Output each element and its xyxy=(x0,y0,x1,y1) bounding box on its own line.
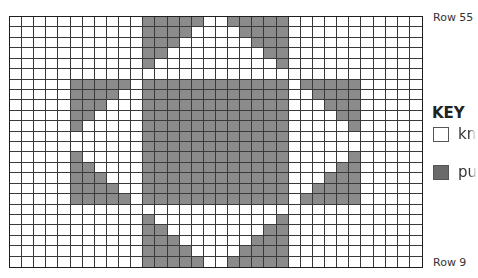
knit-cell xyxy=(398,205,410,215)
knit-cell xyxy=(301,59,313,69)
purl-cell xyxy=(180,152,192,162)
purl-cell xyxy=(216,132,228,142)
knit-cell xyxy=(107,225,119,235)
purl-cell xyxy=(143,194,155,204)
knit-cell xyxy=(289,215,301,225)
purl-cell xyxy=(71,121,83,131)
purl-cell xyxy=(277,257,289,267)
knit-cell xyxy=(95,225,107,235)
knit-cell xyxy=(71,69,83,79)
purl-cell xyxy=(180,121,192,131)
knit-cell xyxy=(10,152,22,162)
purl-cell xyxy=(83,100,95,110)
knit-cell xyxy=(83,246,95,256)
knit-cell xyxy=(386,215,398,225)
knit-cell xyxy=(361,80,373,90)
knit-cell xyxy=(119,173,131,183)
knit-cell xyxy=(34,59,46,69)
purl-cell xyxy=(168,246,180,256)
knit-cell xyxy=(46,100,58,110)
purl-cell xyxy=(155,80,167,90)
knit-cell xyxy=(119,184,131,194)
purl-cell xyxy=(252,194,264,204)
knit-cell xyxy=(289,90,301,100)
knit-cell xyxy=(349,142,361,152)
purl-cell xyxy=(277,121,289,131)
knit-cell xyxy=(58,132,70,142)
purl-cell xyxy=(168,80,180,90)
purl-cell xyxy=(277,163,289,173)
knit-cell xyxy=(131,38,143,48)
purl-cell xyxy=(192,194,204,204)
knit-cell xyxy=(119,121,131,131)
purl-cell xyxy=(264,163,276,173)
knit-cell xyxy=(22,194,34,204)
knit-cell xyxy=(252,225,264,235)
knit-cell xyxy=(58,194,70,204)
knit-cell xyxy=(22,152,34,162)
knit-cell xyxy=(168,69,180,79)
knit-cell xyxy=(119,100,131,110)
knit-cell xyxy=(10,215,22,225)
purl-cell xyxy=(277,173,289,183)
key-label-purl: pu xyxy=(458,163,477,181)
knit-cell xyxy=(71,48,83,58)
purl-cell xyxy=(349,163,361,173)
purl-cell xyxy=(337,100,349,110)
knit-cell xyxy=(398,27,410,37)
knit-cell xyxy=(410,80,422,90)
knit-cell xyxy=(386,121,398,131)
purl-cell xyxy=(277,142,289,152)
purl-cell xyxy=(168,257,180,267)
purl-cell xyxy=(228,152,240,162)
knit-cell xyxy=(337,59,349,69)
knit-cell xyxy=(46,17,58,27)
purl-cell xyxy=(228,132,240,142)
knit-cell xyxy=(349,205,361,215)
knit-cell xyxy=(180,69,192,79)
knit-cell xyxy=(216,236,228,246)
knit-cell xyxy=(386,80,398,90)
knit-cell xyxy=(386,100,398,110)
purl-cell xyxy=(192,257,204,267)
knit-cell xyxy=(289,80,301,90)
knit-cell xyxy=(107,38,119,48)
knit-cell xyxy=(95,246,107,256)
purl-cell xyxy=(155,184,167,194)
purl-cell xyxy=(95,184,107,194)
knit-cell xyxy=(204,205,216,215)
knit-cell xyxy=(410,173,422,183)
knit-cell xyxy=(216,215,228,225)
knit-cell xyxy=(313,17,325,27)
knit-cell xyxy=(131,69,143,79)
purl-swatch-icon xyxy=(433,165,449,180)
purl-cell xyxy=(143,152,155,162)
knit-cell xyxy=(264,215,276,225)
purl-cell xyxy=(180,184,192,194)
knit-cell xyxy=(264,69,276,79)
purl-cell xyxy=(180,100,192,110)
purl-cell xyxy=(155,194,167,204)
purl-cell xyxy=(204,163,216,173)
knit-cell xyxy=(34,152,46,162)
purl-cell xyxy=(180,163,192,173)
knit-cell xyxy=(46,246,58,256)
knit-cell xyxy=(204,236,216,246)
purl-cell xyxy=(143,90,155,100)
knit-cell xyxy=(301,152,313,162)
purl-cell xyxy=(337,184,349,194)
purl-cell xyxy=(252,27,264,37)
knit-cell xyxy=(34,80,46,90)
purl-cell xyxy=(95,90,107,100)
knit-cell xyxy=(386,142,398,152)
knit-cell xyxy=(34,215,46,225)
knit-cell xyxy=(410,184,422,194)
knit-cell xyxy=(22,257,34,267)
knit-cell xyxy=(386,90,398,100)
purl-cell xyxy=(325,80,337,90)
knit-cell xyxy=(168,225,180,235)
knit-cell xyxy=(349,17,361,27)
knit-cell xyxy=(95,48,107,58)
knit-cell xyxy=(374,59,386,69)
purl-cell xyxy=(168,90,180,100)
